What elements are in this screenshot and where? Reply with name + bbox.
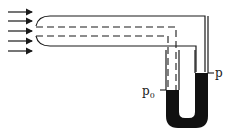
manometer-fluid <box>166 73 208 128</box>
label-p0-main: p <box>142 84 150 98</box>
flow-arrows <box>8 12 32 51</box>
label-p0-sub: 0 <box>150 91 155 100</box>
pipe-outer-wall <box>36 16 205 72</box>
pitot-tube-diagram <box>0 0 228 132</box>
label-p-main: p <box>215 66 223 80</box>
pipe-inner-dashed <box>36 27 176 90</box>
label-p: p <box>215 67 223 79</box>
label-p0: p0 <box>142 85 155 100</box>
